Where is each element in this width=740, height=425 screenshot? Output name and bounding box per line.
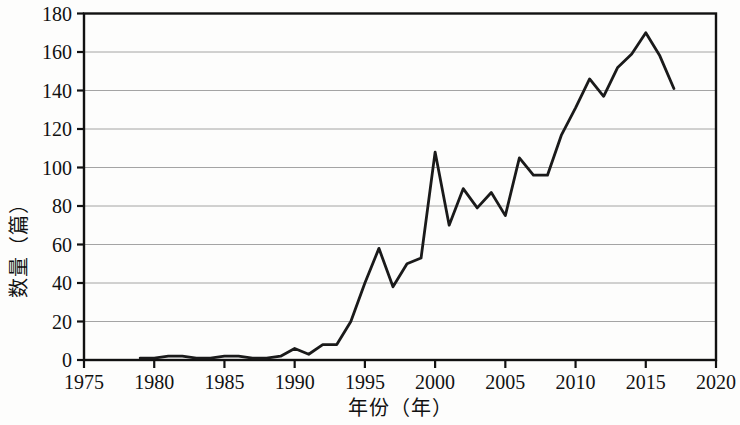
y-tick-label-80: 80 <box>52 195 72 217</box>
y-axis-title: 数量（篇） <box>7 193 31 298</box>
chart-background <box>0 0 740 425</box>
chart-svg: 020406080100120140160180 197519801985199… <box>0 0 740 425</box>
x-tick-label-2000: 2000 <box>415 371 455 393</box>
x-tick-label-2015: 2015 <box>626 371 666 393</box>
y-tick-label-120: 120 <box>42 118 72 140</box>
x-tick-label-1975: 1975 <box>64 371 104 393</box>
y-tick-label-0: 0 <box>62 349 72 371</box>
x-tick-label-2005: 2005 <box>485 371 525 393</box>
x-tick-label-1990: 1990 <box>275 371 315 393</box>
y-tick-label-20: 20 <box>52 311 72 333</box>
y-tick-label-100: 100 <box>42 157 72 179</box>
y-tick-label-40: 40 <box>52 272 72 294</box>
y-tick-label-140: 140 <box>42 80 72 102</box>
x-axis-title: 年份（年） <box>348 396 453 420</box>
y-tick-label-160: 160 <box>42 41 72 63</box>
x-tick-label-2020: 2020 <box>696 371 736 393</box>
x-tick-label-1980: 1980 <box>134 371 174 393</box>
y-tick-label-180: 180 <box>42 3 72 25</box>
y-tick-label-60: 60 <box>52 234 72 256</box>
line-chart: 020406080100120140160180 197519801985199… <box>0 0 740 425</box>
x-tick-label-1995: 1995 <box>345 371 385 393</box>
x-tick-label-1985: 1985 <box>204 371 244 393</box>
x-tick-label-2010: 2010 <box>556 371 596 393</box>
